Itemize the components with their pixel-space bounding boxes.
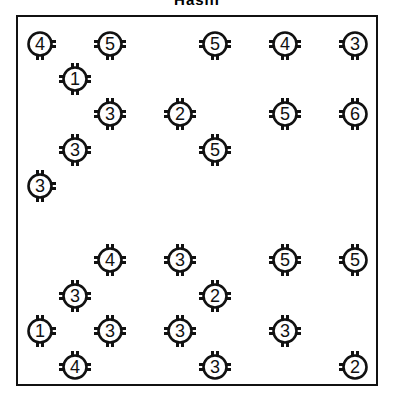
island-node[interactable]: 5: [270, 99, 300, 129]
island-node[interactable]: 3: [270, 316, 300, 346]
island-node[interactable]: 3: [60, 281, 90, 311]
island-node[interactable]: 3: [165, 245, 195, 275]
island-node[interactable]: 3: [25, 171, 55, 201]
island-node[interactable]: 4: [95, 245, 125, 275]
island-value: 4: [25, 29, 55, 59]
island-node[interactable]: 2: [165, 99, 195, 129]
island-node[interactable]: 1: [25, 316, 55, 346]
island-value: 5: [200, 135, 230, 165]
island-value: 3: [165, 245, 195, 275]
island-value: 3: [200, 352, 230, 382]
island-value: 3: [340, 29, 370, 59]
island-value: 1: [25, 316, 55, 346]
island-node[interactable]: 2: [200, 281, 230, 311]
island-value: 6: [340, 99, 370, 129]
island-node[interactable]: 5: [200, 135, 230, 165]
puzzle-title: Hashi: [0, 0, 394, 8]
island-value: 4: [270, 29, 300, 59]
island-node[interactable]: 6: [340, 99, 370, 129]
island-value: 2: [340, 352, 370, 382]
island-value: 2: [200, 281, 230, 311]
island-value: 3: [60, 281, 90, 311]
island-node[interactable]: 4: [60, 352, 90, 382]
island-value: 5: [340, 245, 370, 275]
island-value: 1: [60, 64, 90, 94]
island-node[interactable]: 5: [270, 245, 300, 275]
island-node[interactable]: 1: [60, 64, 90, 94]
island-node[interactable]: 3: [60, 135, 90, 165]
island-value: 3: [270, 316, 300, 346]
island-node[interactable]: 4: [270, 29, 300, 59]
island-node[interactable]: 3: [95, 316, 125, 346]
island-value: 2: [165, 99, 195, 129]
island-value: 3: [25, 171, 55, 201]
island-value: 5: [95, 29, 125, 59]
island-value: 3: [165, 316, 195, 346]
island-value: 5: [200, 29, 230, 59]
island-node[interactable]: 3: [340, 29, 370, 59]
island-value: 4: [60, 352, 90, 382]
island-value: 3: [95, 99, 125, 129]
island-value: 5: [270, 99, 300, 129]
island-node[interactable]: 5: [340, 245, 370, 275]
island-node[interactable]: 5: [95, 29, 125, 59]
island-node[interactable]: 3: [95, 99, 125, 129]
island-node[interactable]: 3: [200, 352, 230, 382]
island-value: 3: [95, 316, 125, 346]
island-value: 4: [95, 245, 125, 275]
island-node[interactable]: 4: [25, 29, 55, 59]
island-value: 5: [270, 245, 300, 275]
island-node[interactable]: 5: [200, 29, 230, 59]
island-node[interactable]: 3: [165, 316, 195, 346]
island-node[interactable]: 2: [340, 352, 370, 382]
island-value: 3: [60, 135, 90, 165]
